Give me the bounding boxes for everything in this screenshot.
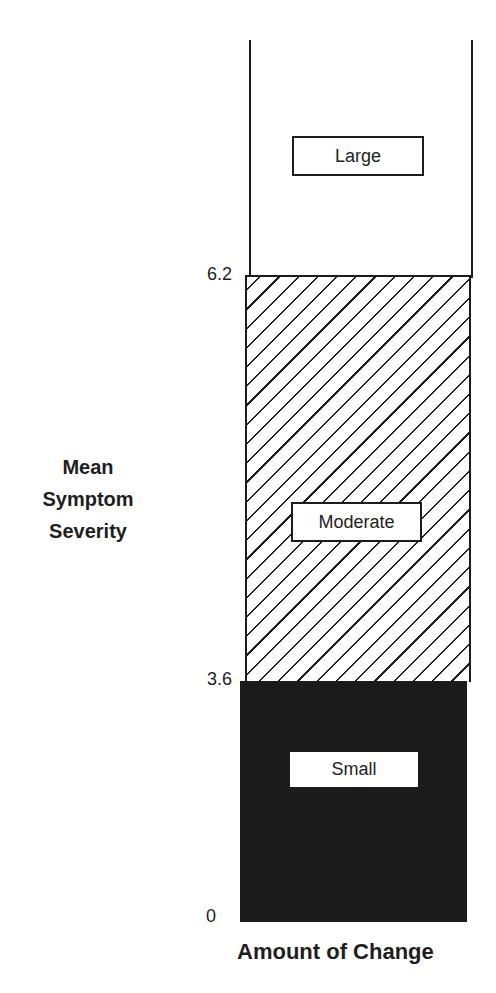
bar-segment-moderate [245,275,471,682]
x-axis-label: Amount of Change [237,939,434,965]
bar-right-edge-upper [471,40,473,278]
tick-label-6-2: 6.2 [192,264,232,285]
tick-label-3-6: 3.6 [192,669,232,690]
y-axis-label: Mean Symptom Severity [18,451,158,547]
segment-label-small: Small [290,752,418,787]
y-axis-label-line-3: Severity [18,515,158,547]
bar-left-edge-upper [249,40,251,278]
segment-label-large: Large [292,136,424,176]
bar-segment-small [240,681,467,922]
y-axis-label-line-1: Mean [18,451,158,483]
y-axis-label-line-2: Symptom [18,483,158,515]
tick-label-0: 0 [176,906,216,927]
segment-label-moderate: Moderate [291,502,422,542]
